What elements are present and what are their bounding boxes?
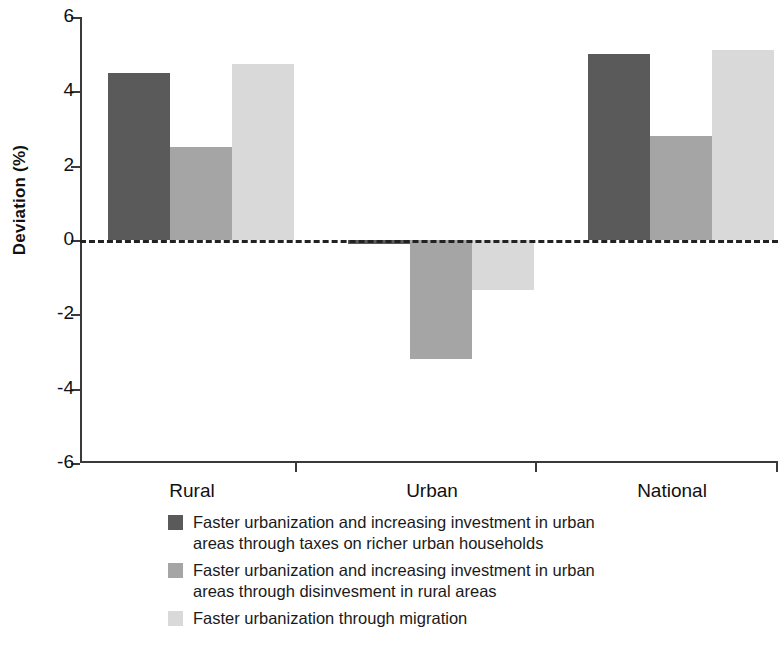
y-tick-label-6: 6 [14,5,74,27]
bar-national-series2 [650,136,712,240]
legend-label-series2: Faster urbanization and increasing inves… [193,560,613,602]
legend-label-series2-line2: areas through disinvesment in rural area… [193,582,497,600]
legend-item-series1: Faster urbanization and increasing inves… [168,512,728,554]
plot-area: 6 4 2 0 -2 -4 -6 [80,17,778,463]
x-axis-label-rural: Rural [88,480,296,502]
legend-label-series1-line1: Faster urbanization and increasing inves… [193,513,595,531]
legend-swatch-series1 [168,515,183,530]
legend-item-series3: Faster urbanization through migration [168,608,728,629]
bar-national-series1 [588,54,650,240]
y-axis-title: Deviation (%) [10,90,30,310]
legend-label-series1-line2: areas through taxes on richer urban hous… [193,534,543,552]
legend-label-series2-line1: Faster urbanization and increasing inves… [193,561,595,579]
y-tick-label-4: 4 [14,79,74,101]
bar-rural-series3 [232,64,294,241]
bar-rural-series1 [108,73,170,240]
x-axis-label-national: National [568,480,776,502]
legend-label-series3: Faster urbanization through migration [193,608,467,629]
x-axis-label-urban: Urban [328,480,536,502]
zero-baseline [80,240,778,243]
bar-urban-series3 [472,240,534,290]
legend-swatch-series3 [168,611,183,626]
x-axis-separator-1 [295,461,297,472]
y-tick-label-neg2: -2 [14,302,74,324]
y-tick-label-2: 2 [14,154,74,176]
bar-urban-series2 [410,240,472,359]
bar-national-series3 [712,50,774,240]
y-tick-label-neg4: -4 [14,377,74,399]
x-axis-separator-2 [535,461,537,472]
y-tick-label-neg6: -6 [14,451,74,473]
y-tick-label-0: 0 [14,228,74,250]
legend-label-series3-line1: Faster urbanization through migration [193,609,467,627]
legend-item-series2: Faster urbanization and increasing inves… [168,560,728,602]
x-axis-line [80,461,778,463]
legend-label-series1: Faster urbanization and increasing inves… [193,512,613,554]
chart-legend: Faster urbanization and increasing inves… [168,512,728,635]
chart-figure: Deviation (%) 6 4 2 0 -2 -4 [0,0,778,653]
bar-rural-series2 [170,147,232,240]
legend-swatch-series2 [168,563,183,578]
